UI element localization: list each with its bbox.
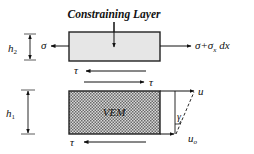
- h1-label: h1: [6, 107, 16, 121]
- h2-label: h2: [8, 42, 18, 56]
- constraining-layer-title: Constraining Layer: [68, 8, 162, 21]
- sigma-right-label: σ+σx dx: [195, 39, 230, 54]
- vem-label: VEM: [103, 106, 126, 118]
- u-label: u: [198, 85, 204, 97]
- u0-label: uo: [188, 132, 198, 146]
- tau-bottom-label: τ: [70, 136, 75, 148]
- sigma-left-label: σ: [41, 39, 47, 51]
- tau-top-label: τ: [74, 64, 79, 76]
- vem-free-body-diagram: Constraining Layer h2 σ σ+σx dx τ τ VEM …: [0, 0, 254, 154]
- gamma-label: γ: [177, 111, 182, 122]
- tau-interface-label: τ: [149, 76, 154, 88]
